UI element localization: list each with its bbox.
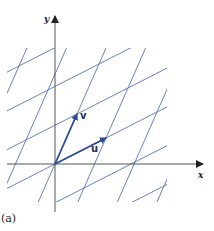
grid-line-parallel-u	[0, 0, 214, 231]
grid-line-parallel-u	[0, 0, 214, 231]
grid-line-parallel-u	[0, 0, 214, 231]
y-axis-label: y	[44, 14, 49, 24]
figure-caption: (a)	[1, 212, 16, 225]
grid-line-parallel-u	[0, 0, 214, 231]
vector-u	[55, 138, 106, 164]
grid-line-parallel-v	[0, 0, 214, 231]
lattice-grid	[0, 0, 214, 231]
x-axis-label: x	[198, 170, 203, 180]
grid-line-parallel-u	[0, 0, 214, 231]
grid-line-parallel-v	[0, 0, 214, 231]
grid-line-parallel-v	[0, 0, 214, 231]
grid-line-parallel-v	[0, 0, 214, 231]
grid-line-parallel-u	[0, 0, 214, 231]
grid-line-parallel-v	[0, 0, 214, 231]
skewed-grid-diagram	[0, 0, 214, 231]
grid-line-parallel-u	[0, 0, 214, 231]
grid-line-parallel-u	[0, 0, 214, 231]
vector-v	[55, 114, 77, 164]
grid-line-parallel-u	[0, 0, 214, 231]
vector-u-label: u	[91, 143, 98, 154]
grid-line-parallel-v	[0, 0, 214, 231]
grid-line-parallel-v	[0, 0, 214, 231]
vector-v-label: v	[80, 110, 87, 121]
grid-line-parallel-v	[0, 0, 214, 231]
grid-line-parallel-v	[0, 0, 214, 231]
